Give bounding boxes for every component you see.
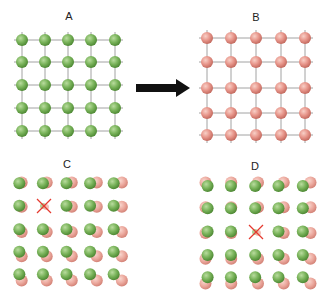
atom	[16, 102, 28, 114]
atom	[201, 32, 213, 44]
atom	[299, 129, 311, 141]
atom	[62, 125, 74, 137]
atom-green	[225, 249, 237, 261]
arrow-head-icon	[176, 79, 190, 97]
atom-green	[249, 202, 261, 214]
atom	[16, 125, 28, 137]
atom	[85, 34, 97, 46]
atom	[109, 34, 121, 46]
atom-green	[297, 271, 309, 283]
atom-green	[108, 177, 120, 189]
atom-green	[249, 271, 261, 283]
atom-green	[108, 268, 120, 280]
panel-c	[13, 177, 128, 287]
atom-green	[297, 249, 309, 261]
panel-label-a: A	[65, 10, 73, 22]
atom	[275, 107, 287, 119]
atom	[201, 82, 213, 94]
panel-label-b: B	[252, 11, 259, 23]
panel-a	[14, 32, 123, 139]
atom	[250, 107, 262, 119]
atom-green	[84, 223, 96, 235]
atom	[85, 102, 97, 114]
atom-green	[202, 202, 214, 214]
atom	[275, 82, 287, 94]
atom-green	[273, 271, 285, 283]
atom	[275, 129, 287, 141]
atom-green	[225, 226, 237, 238]
atom	[225, 129, 237, 141]
transition-arrow	[136, 79, 190, 97]
arrow-shaft	[136, 84, 178, 92]
atom-green	[249, 249, 261, 261]
atom-green	[225, 180, 237, 192]
atom	[39, 125, 51, 137]
atom-green	[249, 180, 261, 192]
atom	[62, 102, 74, 114]
atom	[225, 82, 237, 94]
atom	[16, 34, 28, 46]
atom	[250, 32, 262, 44]
atom	[39, 79, 51, 91]
atom	[225, 107, 237, 119]
atom-green	[273, 249, 285, 261]
atom-green	[37, 246, 49, 258]
atom-green	[61, 223, 73, 235]
atom-green	[13, 223, 25, 235]
atom	[299, 56, 311, 68]
atom	[109, 125, 121, 137]
atom	[85, 56, 97, 68]
atom	[299, 82, 311, 94]
atom-green	[84, 246, 96, 258]
atom	[250, 82, 262, 94]
atom-green	[202, 226, 214, 238]
atom-green	[225, 271, 237, 283]
atom	[16, 79, 28, 91]
atom-green	[13, 268, 25, 280]
atom	[109, 79, 121, 91]
panel-label-d: D	[251, 160, 259, 172]
atom-green	[61, 246, 73, 258]
atom	[225, 32, 237, 44]
atom-green	[108, 223, 120, 235]
atom	[275, 56, 287, 68]
atom-green	[37, 268, 49, 280]
atom	[62, 56, 74, 68]
atom	[250, 56, 262, 68]
atom-green	[297, 202, 309, 214]
atom-green	[273, 202, 285, 214]
atom-green	[225, 202, 237, 214]
atom	[201, 129, 213, 141]
atom	[299, 107, 311, 119]
atom	[299, 32, 311, 44]
atom-green	[108, 246, 120, 258]
panel-label-c: C	[63, 158, 71, 170]
atom-green	[84, 268, 96, 280]
atom	[275, 32, 287, 44]
atom-green	[37, 223, 49, 235]
atom-green	[273, 226, 285, 238]
atom	[62, 79, 74, 91]
atom-green	[202, 249, 214, 261]
atom	[250, 129, 262, 141]
panel-b	[199, 30, 313, 143]
atom-green	[61, 268, 73, 280]
atom-green	[202, 180, 214, 192]
atom-green	[84, 200, 96, 212]
atom	[16, 56, 28, 68]
lattice-diagram: A B C D	[0, 0, 327, 298]
atom	[39, 102, 51, 114]
atom-green	[84, 177, 96, 189]
atom-green	[61, 200, 73, 212]
atom	[39, 56, 51, 68]
atom	[85, 79, 97, 91]
atom-green	[273, 180, 285, 192]
atom	[201, 107, 213, 119]
atom-green	[37, 177, 49, 189]
panel-d	[200, 177, 317, 290]
atom-green	[297, 180, 309, 192]
atom	[62, 34, 74, 46]
atom-green	[297, 226, 309, 238]
atom-green	[13, 246, 25, 258]
atom	[85, 125, 97, 137]
